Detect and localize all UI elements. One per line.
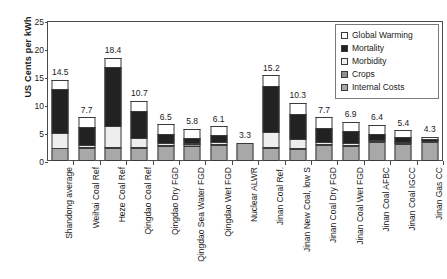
bar-group[interactable]: 6.1 [205, 21, 231, 161]
bar-segment-internal-costs[interactable] [157, 146, 174, 161]
bar-stack[interactable] [263, 75, 280, 161]
bar-stack[interactable] [342, 122, 359, 161]
bar-value-label: 7.7 [318, 105, 330, 115]
bar-segment-internal-costs[interactable] [210, 145, 227, 161]
legend-swatch-icon [341, 58, 348, 65]
bar-stack[interactable] [316, 117, 333, 161]
bar-segment-internal-costs[interactable] [78, 148, 95, 161]
bar-segment-mortality[interactable] [131, 111, 148, 138]
bar-group[interactable]: 7.7 [311, 21, 337, 161]
chart-legend: Global WarmingMortalityMorbidityCropsInt… [335, 24, 439, 99]
x-axis-category-label: Qingdao Dry FGD [170, 167, 180, 235]
legend-item[interactable]: Morbidity [341, 55, 434, 68]
legend-item[interactable]: Crops [341, 68, 434, 81]
bar-segment-global-warming[interactable] [78, 117, 95, 127]
bar-group[interactable]: 18.4 [100, 21, 126, 161]
bar-value-label: 10.7 [131, 88, 148, 98]
bar-value-label: 5.8 [186, 116, 198, 126]
bar-value-label: 14.5 [52, 67, 69, 77]
bar-stack[interactable] [104, 58, 121, 161]
bar-group[interactable]: 5.8 [179, 21, 205, 161]
bar-segment-global-warming[interactable] [184, 129, 201, 138]
bar-segment-mortality[interactable] [263, 86, 280, 132]
x-axis-category-label: Jinan Coal Dry FGD [328, 167, 338, 243]
legend-item[interactable]: Mortality [341, 42, 434, 55]
bar-segment-internal-costs[interactable] [236, 143, 253, 161]
bar-segment-morbidity[interactable] [52, 133, 69, 148]
bar-group[interactable]: 15.2 [258, 21, 284, 161]
bar-stack[interactable] [131, 101, 148, 161]
bar-segment-global-warming[interactable] [52, 80, 69, 90]
bar-segment-internal-costs[interactable] [263, 148, 280, 161]
x-axis-tick-mark [153, 161, 154, 165]
bar-segment-global-warming[interactable] [210, 126, 227, 135]
bar-segment-internal-costs[interactable] [289, 149, 306, 161]
bar-segment-internal-costs[interactable] [421, 142, 438, 161]
legend-swatch-icon [341, 32, 348, 39]
bar-segment-mortality[interactable] [104, 67, 121, 126]
bar-stack[interactable] [236, 143, 253, 161]
bar-segment-global-warming[interactable] [104, 58, 121, 68]
bar-stack[interactable] [421, 137, 438, 162]
bar-segment-internal-costs[interactable] [395, 144, 412, 161]
bar-group[interactable]: 10.7 [126, 21, 152, 161]
x-axis-category-label: Qingdao Coal Ref [143, 167, 153, 235]
bar-stack[interactable] [368, 125, 385, 161]
bar-segment-mortality[interactable] [52, 89, 69, 133]
bar-segment-morbidity[interactable] [263, 132, 280, 147]
bar-stack[interactable] [395, 130, 412, 161]
bar-value-label: 18.4 [105, 45, 122, 55]
x-axis-category-label: Jinan Gas CC [434, 167, 444, 220]
x-axis-tick-mark [337, 161, 338, 165]
bar-segment-global-warming[interactable] [316, 117, 333, 127]
bar-value-label: 15.2 [263, 63, 280, 73]
bar-segment-global-warming[interactable] [289, 103, 306, 114]
bar-segment-internal-costs[interactable] [342, 146, 359, 161]
legend-swatch-icon [341, 71, 348, 78]
x-axis-category-label: Heze Coal Ref [117, 167, 127, 222]
x-axis-category-label: Qingdao Wet FGD [223, 167, 233, 237]
bar-segment-internal-costs[interactable] [131, 148, 148, 161]
x-axis-category-label: Jinan Coal Ref. [275, 167, 285, 225]
bar-stack[interactable] [78, 117, 95, 161]
bar-segment-mortality[interactable] [342, 131, 359, 143]
bar-segment-mortality[interactable] [316, 128, 333, 143]
bar-segment-mortality[interactable] [78, 127, 95, 145]
bar-group[interactable]: 3.3 [232, 21, 258, 161]
bar-segment-internal-costs[interactable] [368, 142, 385, 161]
bar-segment-global-warming[interactable] [342, 122, 359, 132]
bar-segment-internal-costs[interactable] [184, 146, 201, 161]
bar-segment-global-warming[interactable] [368, 125, 385, 135]
bar-stack[interactable] [157, 124, 174, 161]
bar-stack[interactable] [52, 80, 69, 161]
bar-stack[interactable] [184, 129, 201, 161]
bar-group[interactable]: 7.7 [73, 21, 99, 161]
bar-group[interactable]: 10.3 [285, 21, 311, 161]
x-axis-tick-mark [390, 161, 391, 165]
bar-stack[interactable] [289, 103, 306, 161]
x-axis-category-label: Jinan Coal AFBC [381, 167, 391, 232]
bar-segment-internal-costs[interactable] [316, 145, 333, 161]
bar-group[interactable]: 14.5 [47, 21, 73, 161]
x-axis-tick-mark [73, 161, 74, 165]
bar-segment-mortality[interactable] [289, 114, 306, 140]
bar-segment-morbidity[interactable] [131, 138, 148, 147]
legend-item[interactable]: Internal Costs [341, 81, 434, 94]
bar-segment-global-warming[interactable] [131, 101, 148, 111]
bar-segment-morbidity[interactable] [104, 126, 121, 147]
bar-stack[interactable] [210, 126, 227, 161]
bar-segment-morbidity[interactable] [289, 139, 306, 147]
bar-segment-mortality[interactable] [157, 134, 174, 143]
bar-segment-mortality[interactable] [210, 135, 227, 142]
bar-segment-global-warming[interactable] [263, 75, 280, 85]
legend-item[interactable]: Global Warming [341, 29, 434, 42]
x-axis-tick-mark [232, 161, 233, 165]
bar-segment-internal-costs[interactable] [52, 148, 69, 161]
x-axis-tick-mark [205, 161, 206, 165]
bar-segment-internal-costs[interactable] [104, 148, 121, 161]
bar-segment-global-warming[interactable] [157, 124, 174, 134]
bar-value-label: 3.3 [239, 130, 251, 140]
x-axis-category-label: Jinan Coal IGCC [407, 167, 417, 231]
bar-group[interactable]: 6.5 [153, 21, 179, 161]
legend-item-label: Internal Costs [352, 83, 404, 92]
